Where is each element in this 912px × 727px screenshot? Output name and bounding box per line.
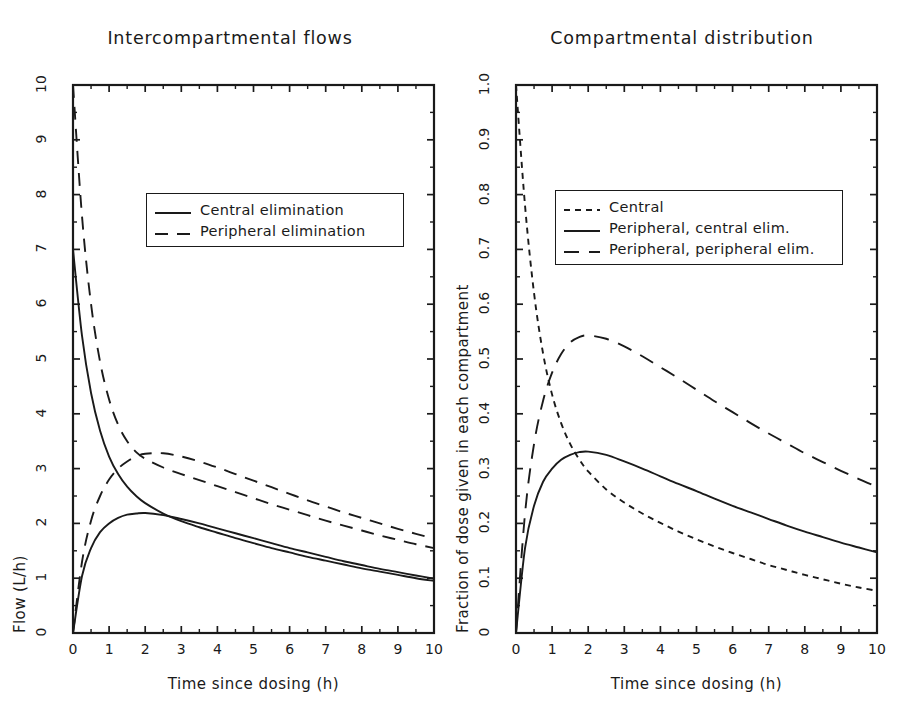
x-tick-label: 5 — [677, 641, 717, 657]
series-line — [73, 513, 434, 633]
legend-item: Central elimination — [153, 199, 395, 220]
x-tick-label: 8 — [785, 641, 825, 657]
legend-label: Peripheral elimination — [200, 223, 366, 239]
x-tick-label: 0 — [53, 641, 93, 657]
x-tick-label: 4 — [640, 641, 680, 657]
legend-left: Central eliminationPeripheral eliminatio… — [146, 193, 404, 247]
x-tick-label: 6 — [270, 641, 310, 657]
x-tick-label: 7 — [306, 641, 346, 657]
y-tick-label: 7 — [33, 228, 49, 268]
y-tick-label: 4 — [33, 393, 49, 433]
legend-label: Central elimination — [200, 202, 344, 218]
legend-right: CentralPeripheral, central elim.Peripher… — [555, 190, 843, 265]
legend-label: Central — [609, 199, 664, 215]
x-tick-label: 8 — [342, 641, 382, 657]
x-tick-label: 9 — [821, 641, 861, 657]
y-tick-label: 0.5 — [476, 338, 492, 378]
x-tick-label: 1 — [532, 641, 572, 657]
x-tick-label: 10 — [414, 641, 454, 657]
y-tick-label: 3 — [33, 448, 49, 488]
y-tick-label: 8 — [33, 174, 49, 214]
x-axis-title: Time since dosing (h) — [33, 675, 474, 693]
y-axis-title: Flow (L/h) — [11, 555, 29, 633]
y-tick-label: 1 — [33, 557, 49, 597]
y-tick-label: 9 — [33, 119, 49, 159]
x-tick-label: 0 — [496, 641, 536, 657]
x-tick-label: 3 — [604, 641, 644, 657]
legend-item: Peripheral elimination — [153, 220, 395, 241]
series-line — [516, 85, 877, 591]
y-tick-label: 0 — [33, 612, 49, 652]
x-tick-label: 5 — [234, 641, 274, 657]
plot-frame — [73, 85, 434, 633]
legend-line-sample — [562, 222, 602, 234]
panel-compartmental-distribution: Compartmental distribution CentralPeriph… — [452, 0, 912, 727]
y-tick-label: 2 — [33, 502, 49, 542]
x-tick-label: 3 — [161, 641, 201, 657]
series-line — [73, 85, 434, 548]
panel-intercompartmental-flows: Intercompartmental flows Central elimina… — [0, 0, 460, 727]
y-tick-label: 10 — [33, 64, 49, 104]
figure-root: Intercompartmental flows Central elimina… — [0, 0, 912, 727]
y-tick-label: 0.3 — [476, 448, 492, 488]
series-line — [73, 249, 434, 581]
legend-item: Central — [562, 196, 834, 217]
y-tick-label: 0.2 — [476, 502, 492, 542]
plot-area-left — [0, 0, 460, 727]
x-axis-title: Time since dosing (h) — [476, 675, 912, 693]
y-tick-label: 0.6 — [476, 283, 492, 323]
x-tick-label: 10 — [857, 641, 897, 657]
y-tick-label: 0.1 — [476, 557, 492, 597]
x-tick-label: 9 — [378, 641, 418, 657]
legend-line-sample — [562, 243, 602, 255]
x-tick-label: 4 — [197, 641, 237, 657]
plot-area-right — [452, 0, 912, 727]
y-tick-label: 0.8 — [476, 174, 492, 214]
x-tick-label: 2 — [125, 641, 165, 657]
plot-frame — [516, 85, 877, 633]
legend-line-sample — [562, 201, 602, 213]
legend-label: Peripheral, peripheral elim. — [609, 241, 815, 257]
y-tick-label: 0.9 — [476, 119, 492, 159]
legend-line-sample — [153, 204, 193, 216]
y-tick-label: 6 — [33, 283, 49, 323]
y-tick-label: 0.4 — [476, 393, 492, 433]
x-tick-label: 1 — [89, 641, 129, 657]
y-axis-title: Fraction of dose given in each compartme… — [454, 284, 472, 633]
legend-item: Peripheral, peripheral elim. — [562, 238, 834, 259]
series-line — [516, 451, 877, 633]
x-tick-label: 2 — [568, 641, 608, 657]
legend-item: Peripheral, central elim. — [562, 217, 834, 238]
series-line — [516, 335, 877, 633]
y-tick-label: 0.7 — [476, 228, 492, 268]
x-tick-label: 6 — [713, 641, 753, 657]
y-tick-label: 1.0 — [476, 64, 492, 104]
legend-line-sample — [153, 225, 193, 237]
legend-label: Peripheral, central elim. — [609, 220, 790, 236]
y-tick-label: 0 — [476, 612, 492, 652]
x-tick-label: 7 — [749, 641, 789, 657]
y-tick-label: 5 — [33, 338, 49, 378]
